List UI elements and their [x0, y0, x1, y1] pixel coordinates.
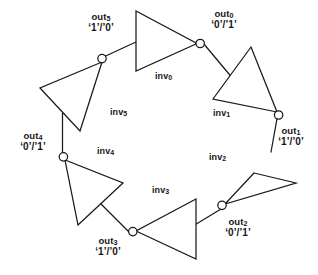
- node-name-out5: out5: [74, 11, 128, 22]
- inverter-label-inv4: inv4: [97, 146, 114, 157]
- wire-out0-to-inv1: [204, 44, 235, 81]
- inv5-output-bubble: [98, 54, 106, 62]
- inv3-triangle: [136, 199, 196, 259]
- wire-out3-to-inv4: [101, 204, 130, 233]
- inverter-inv4: [59, 153, 123, 225]
- node-name-out1: out1: [266, 125, 316, 136]
- inv1-triangle: [213, 47, 277, 112]
- inverter-label-inv5: inv5: [110, 107, 127, 118]
- node-value-out2: ‘0’/’1’: [211, 227, 265, 239]
- node-label-out1: out1 ‘1’/’0’: [266, 125, 316, 148]
- inv0-triangle: [136, 11, 197, 71]
- node-label-out4: out4 ‘0’/’1’: [6, 130, 60, 153]
- inverter-label-inv2: inv2: [209, 152, 226, 163]
- node-value-out5: ‘1’/’0’: [74, 22, 128, 34]
- inv4-triangle: [65, 160, 123, 225]
- inverter-label-inv3: inv3: [152, 185, 169, 196]
- inv2-triangle: [225, 173, 296, 204]
- inv1-output-bubble: [274, 111, 282, 119]
- wire-out5-to-inv0: [105, 42, 137, 57]
- inv4-output-bubble: [59, 153, 67, 161]
- inv0-output-bubble: [196, 39, 204, 47]
- ring-oscillator-diagram: out5 ‘1’/’0’ out0 ‘0’/’1’ out1 ‘1’/’0’ o…: [0, 0, 318, 275]
- inverter-inv0: [136, 11, 204, 71]
- inverter-label-inv0: inv0: [155, 71, 172, 82]
- inverter-label-inv1: inv1: [213, 108, 230, 119]
- inverter-inv2: [218, 173, 296, 210]
- node-value-out3: ‘1’/’0’: [81, 246, 135, 258]
- inverter-inv3: [129, 199, 196, 259]
- node-label-out5: out5 ‘1’/’0’: [74, 11, 128, 34]
- node-value-out1: ‘1’/’0’: [266, 136, 316, 148]
- node-name-out0: out0: [197, 8, 251, 19]
- node-value-out4: ‘0’/’1’: [6, 141, 60, 153]
- node-name-out2: out2: [211, 216, 265, 227]
- node-name-out3: out3: [81, 235, 135, 246]
- node-label-out3: out3 ‘1’/’0’: [81, 235, 135, 258]
- node-label-out0: out0 ‘0’/’1’: [197, 8, 251, 31]
- inverter-inv5: [40, 54, 106, 131]
- node-name-out4: out4: [6, 130, 60, 141]
- node-label-out2: out2 ‘0’/’1’: [211, 216, 265, 239]
- inv5-triangle: [40, 62, 102, 131]
- inv2-output-bubble: [218, 201, 226, 209]
- node-value-out0: ‘0’/’1’: [197, 19, 251, 31]
